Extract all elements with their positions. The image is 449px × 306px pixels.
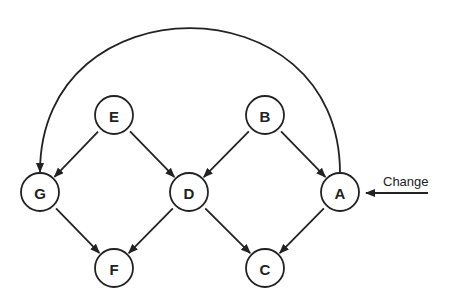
edges [40,28,340,253]
edge-E-to-D [130,131,174,176]
edge-E-to-G [55,132,99,177]
node-G: G [21,173,59,211]
edge-D-to-C [205,208,250,253]
edge-A-to-C [280,208,324,253]
node-D: D [170,173,208,211]
node-label: B [260,108,271,125]
change-input: Change [366,174,429,193]
edge-D-to-F [129,208,173,253]
node-label: C [260,261,271,278]
node-A: A [321,173,359,211]
node-E: E [95,96,133,134]
graph-canvas: EBGDAFC Change [0,0,449,306]
node-C: C [246,249,284,287]
node-label: A [335,185,346,202]
dependency-graph: EBGDAFC Change [0,0,449,306]
change-label: Change [383,174,429,189]
edge-A-to-G [40,28,340,173]
edge-B-to-A [281,131,325,176]
edge-B-to-D [204,131,249,177]
nodes: EBGDAFC [21,96,359,287]
node-label: G [34,185,46,202]
node-label: E [109,108,119,125]
node-label: D [184,185,195,202]
node-B: B [246,96,284,134]
edge-G-to-F [56,208,99,252]
node-label: F [109,261,118,278]
node-F: F [95,249,133,287]
